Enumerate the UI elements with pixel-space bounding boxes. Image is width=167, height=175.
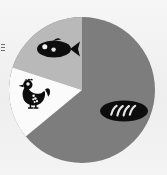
margin-tick-mark	[1, 47, 5, 48]
margin-tick-mark	[1, 50, 5, 51]
bread-icon	[100, 101, 148, 122]
pie-chart-figure	[0, 0, 167, 175]
margin-tick-marks	[1, 44, 5, 55]
margin-tick-mark	[1, 44, 5, 45]
pie-chart	[0, 0, 167, 175]
